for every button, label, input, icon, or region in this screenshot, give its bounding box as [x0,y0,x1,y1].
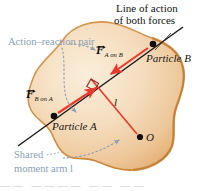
clipped-caption-strip: —— ———— —— —— [0,180,198,191]
force-subscript-a-on-b: A on B [104,51,122,58]
title-line-of-action-2: of both forces [114,14,175,26]
point-o-dot [137,134,143,140]
physics-diagram-figure: Line of action of both forces Action–rea… [0,0,198,191]
vector-arrow-icon [96,44,106,50]
label-particle-b: Particle B [146,52,191,64]
title-line-of-action-1: Line of action [116,2,178,14]
particle-b-dot [150,41,157,48]
shared-word-dots [47,152,62,155]
particle-a-dot [51,113,58,120]
vector-arrow-icon [26,88,36,94]
force-label-a-on-b: FA on B [96,44,122,57]
annotation-action-reaction-pair: Action–reaction pair [8,36,95,48]
annotation-shared-line2: moment arm l [14,163,73,175]
label-particle-a: Particle A [52,120,97,132]
annotation-shared-line1: Shared [14,149,43,161]
force-label-b-on-a: FB on A [26,88,52,101]
force-subscript-b-on-a: B on A [34,95,52,102]
label-moment-arm: l [114,96,117,108]
label-point-o: O [146,131,154,143]
